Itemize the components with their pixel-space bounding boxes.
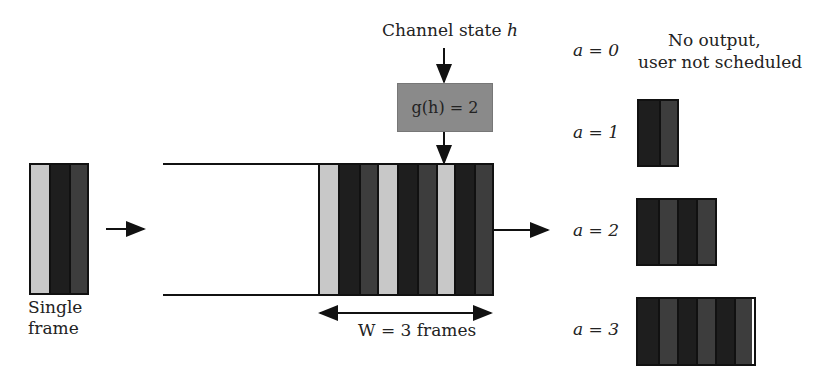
buffer-strip-dark: [474, 165, 492, 294]
buffer-bottom-line: [163, 294, 319, 296]
frame-strip-dark: [69, 165, 87, 293]
buffer-strip-light: [377, 165, 397, 294]
buffer-strip-dark: [359, 165, 378, 294]
channel-state-label: Channel state h: [382, 20, 518, 41]
out-strip-dark: [696, 200, 715, 264]
buffer-strip-light: [320, 165, 338, 294]
frame-strip-black: [49, 165, 69, 293]
out-strip-dark: [659, 101, 677, 165]
output-a0-label: a = 0: [573, 40, 619, 61]
single-frame-label-2: frame: [28, 318, 79, 339]
out-strip-dark: [658, 299, 677, 364]
output-a2-label: a = 2: [573, 220, 619, 241]
frame-strip-light: [31, 165, 49, 293]
buffer-strip-black: [397, 165, 417, 294]
output-a0-desc-2: user not scheduled: [638, 52, 802, 73]
output-a3-block: [636, 297, 756, 366]
out-strip-black: [639, 101, 659, 165]
out-strip-dark: [734, 299, 752, 364]
single-frame-label-1: Single: [28, 297, 82, 318]
output-a2-block: [636, 198, 717, 266]
buffer-strip-light: [436, 165, 455, 294]
buffer-strip-dark: [417, 165, 436, 294]
out-strip-black: [677, 299, 696, 364]
output-a3-label: a = 3: [573, 319, 619, 340]
scheduling-function-text: g(h) = 2: [412, 97, 479, 118]
buffer-top-line: [163, 163, 319, 165]
output-a0-desc-1: No output,: [668, 30, 761, 51]
out-strip-black: [715, 299, 734, 364]
output-a1-label: a = 1: [573, 122, 619, 143]
buffer-strip-black: [454, 165, 474, 294]
out-strip-black: [638, 200, 658, 264]
scheduling-function-box: g(h) = 2: [397, 83, 493, 132]
out-strip-dark: [658, 200, 677, 264]
out-strip-black: [677, 200, 696, 264]
buffer-frames: [318, 163, 494, 296]
single-frame: [29, 163, 89, 295]
window-width-label: W = 3 frames: [358, 320, 476, 341]
output-a1-block: [637, 99, 679, 167]
out-strip-black: [638, 299, 658, 364]
out-strip-dark: [696, 299, 715, 364]
buffer-strip-black: [338, 165, 359, 294]
